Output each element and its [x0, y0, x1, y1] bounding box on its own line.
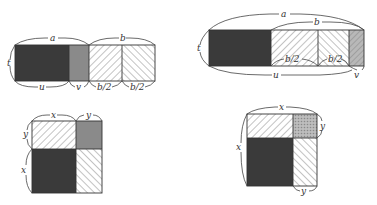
label-t: t [197, 43, 201, 53]
label-half-b-1: b/2 [285, 54, 300, 64]
hatched-region-xy [32, 121, 76, 149]
gray-region-yy [76, 121, 102, 149]
hatched-region-right [293, 138, 317, 186]
dark-region-u [15, 45, 69, 81]
hatched-region-top [247, 114, 293, 138]
gray-region-v [69, 45, 89, 81]
hatched-region-half-b-1 [89, 45, 122, 81]
label-b: b [120, 33, 126, 43]
diagram-bottom-right: x y x y [236, 102, 326, 196]
brace-x-left [241, 114, 247, 186]
label-v: v [76, 82, 81, 92]
label-y-bottom: y [300, 186, 307, 196]
label-a: a [281, 9, 286, 19]
hatched-region-yx [76, 149, 102, 193]
label-half-b-2: b/2 [328, 54, 343, 64]
diagram-bottom-left: x y y x [21, 110, 102, 193]
dark-region [209, 30, 271, 66]
hatched-region-half-b-2 [122, 45, 155, 81]
diagram-top-right: a b t u b/2 b/2 v [197, 9, 364, 80]
dark-region [247, 138, 293, 186]
label-x-left: x [236, 142, 241, 152]
brace-u [209, 66, 352, 75]
label-v: v [354, 70, 359, 80]
label-b: b [314, 17, 320, 27]
label-a: a [50, 33, 55, 43]
label-y-left: y [22, 129, 29, 139]
label-half-b-2: b/2 [130, 82, 145, 92]
brace-x-left [26, 149, 32, 193]
gray-hatched-region-v [349, 30, 364, 66]
diagram-top-left: a b t u v b/2 b/2 [7, 33, 155, 92]
label-half-b-1: b/2 [97, 82, 112, 92]
label-t: t [7, 58, 11, 68]
label-y-right: y [319, 121, 326, 131]
brace-t [10, 45, 15, 81]
label-x-top: x [279, 102, 284, 112]
label-y-top: y [85, 110, 92, 120]
label-u: u [39, 82, 45, 92]
crosshatch-region-yy [293, 114, 317, 138]
label-u: u [273, 70, 279, 80]
label-x-left: x [21, 165, 26, 175]
brace-t [200, 30, 209, 66]
dark-region-xx [32, 149, 76, 193]
brace-a [209, 14, 364, 30]
figure-canvas: a b t u v b/2 b/2 a b t u [0, 0, 377, 205]
label-x-top: x [51, 110, 56, 120]
